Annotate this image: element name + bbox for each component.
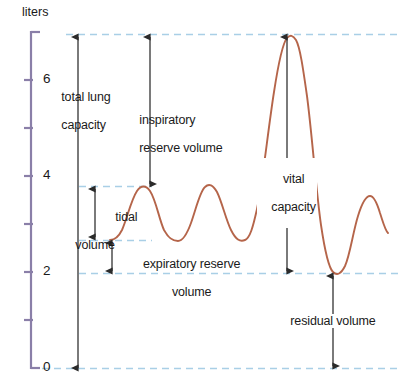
label-inspiratory-reserve-volume-line2: reserve volume (139, 141, 222, 155)
label-total-lung-capacity: total lung capacity (48, 76, 111, 146)
label-tidal-volume-line2: volume (75, 238, 114, 252)
y-axis-unit-label: liters (22, 5, 48, 19)
label-expiratory-reserve-volume-line2: volume (172, 285, 211, 299)
label-tidal-volume: tidal volume (62, 196, 112, 266)
label-vital-capacity: vital capacity (257, 158, 317, 228)
spirogram-canvas (0, 0, 402, 386)
label-vital-capacity-line2: capacity (271, 200, 316, 214)
label-inspiratory-reserve-volume-line1: inspiratory (139, 113, 195, 127)
label-expiratory-reserve-volume-line1: expiratory reserve (143, 257, 240, 271)
y-axis-tick-label-4: 4 (43, 167, 51, 182)
label-tidal-volume-line1: tidal (115, 210, 137, 224)
y-axis-tick-label-0: 0 (43, 359, 51, 374)
y-axis-tick-label-2: 2 (43, 263, 51, 278)
label-total-lung-capacity-line2: capacity (61, 118, 106, 132)
label-total-lung-capacity-line1: total lung (61, 90, 110, 104)
y-axis (24, 31, 40, 369)
label-residual-volume: residual volume (273, 314, 393, 328)
spirogram-figure: liters 6 4 2 0 total lung capacity inspi… (0, 0, 402, 386)
label-inspiratory-reserve-volume: inspiratory reserve volume (126, 99, 223, 169)
label-vital-capacity-line1: vital (283, 172, 304, 186)
label-expiratory-reserve-volume: expiratory reserve volume (120, 243, 250, 313)
